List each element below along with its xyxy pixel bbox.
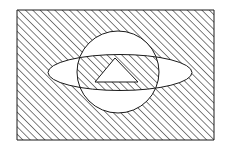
figure-canvas — [0, 0, 226, 153]
